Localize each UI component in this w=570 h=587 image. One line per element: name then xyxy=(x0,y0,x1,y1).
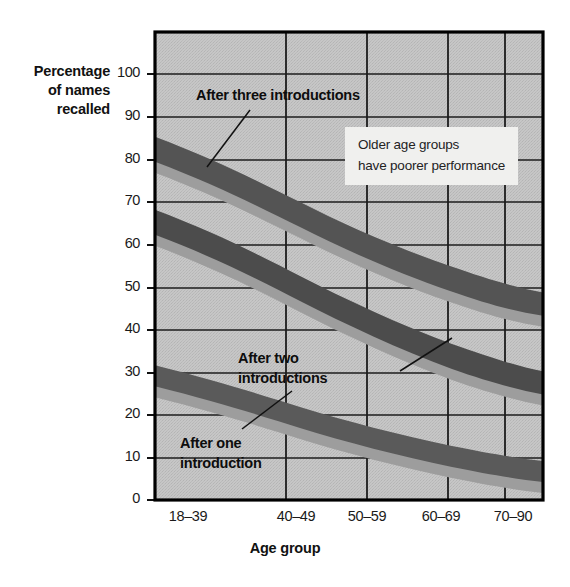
note-line-2: have poorer performance xyxy=(358,155,505,176)
series-label-two-line-2: introductions xyxy=(238,368,327,388)
series-label-two-introductions: After two introductions xyxy=(238,348,327,388)
y-axis-title: Percentage of names recalled xyxy=(6,62,110,119)
series-label-three-introductions: After three introductions xyxy=(196,85,360,105)
x-tick-label-60-69: 60–69 xyxy=(406,508,476,524)
y-tick-label-0: 0 xyxy=(104,490,140,506)
y-tick-label-40: 40 xyxy=(104,320,140,336)
series-label-one-line-2: introduction xyxy=(180,453,262,473)
y-tick-label-80: 80 xyxy=(104,150,140,166)
y-tick-label-90: 90 xyxy=(104,107,140,123)
y-tick-label-20: 20 xyxy=(104,405,140,421)
y-tick-label-30: 30 xyxy=(104,363,140,379)
x-tick-label-18-39: 18–39 xyxy=(153,508,223,524)
y-axis-title-line-3: recalled xyxy=(6,100,110,119)
y-tick-label-70: 70 xyxy=(104,192,140,208)
x-tick-label-50-59: 50–59 xyxy=(332,508,402,524)
x-tick-label-40-49: 40–49 xyxy=(261,508,331,524)
series-label-two-line-1: After two xyxy=(238,348,327,368)
y-tick-label-50: 50 xyxy=(104,278,140,294)
chart-figure: Percentage of names recalled 100 90 80 7… xyxy=(0,0,570,587)
y-axis-title-line-2: of names xyxy=(6,81,110,100)
y-tick-label-60: 60 xyxy=(104,235,140,251)
older-age-groups-note: Older age groups have poorer performance xyxy=(345,127,518,185)
series-label-one-introduction: After one introduction xyxy=(180,433,262,473)
series-label-one-line-1: After one xyxy=(180,433,262,453)
y-axis-title-line-1: Percentage xyxy=(6,62,110,81)
x-tick-label-70-90: 70–90 xyxy=(478,508,548,524)
x-axis-title: Age group xyxy=(0,540,570,556)
series-label-three-line-1: After three introductions xyxy=(196,85,360,105)
note-line-1: Older age groups xyxy=(358,134,505,155)
y-tick-label-100: 100 xyxy=(104,64,140,80)
y-tick-label-10: 10 xyxy=(104,448,140,464)
